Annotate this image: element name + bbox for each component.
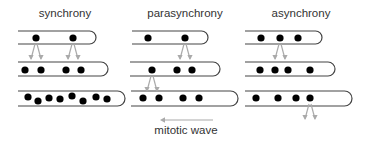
nucleus-dot <box>181 34 188 41</box>
nucleus-dot <box>21 66 28 73</box>
nucleus-dot <box>24 93 31 100</box>
nucleus-dot <box>284 66 291 73</box>
nucleus-dot <box>256 66 263 73</box>
nucleus-dot <box>294 34 301 41</box>
arrow-head-icon <box>282 55 287 60</box>
panel-parasynchrony: parasynchrony <box>130 7 238 106</box>
nucleus-dot <box>276 34 283 41</box>
nucleus-dot <box>77 66 84 73</box>
panel-asynchrony: asynchrony <box>245 7 352 120</box>
arrow-head-icon <box>187 55 192 60</box>
nucleus-dot <box>69 34 76 41</box>
arrow-head-icon <box>65 55 70 60</box>
nucleus-dot <box>195 94 202 101</box>
hypha-tube <box>132 31 208 44</box>
nucleus-dot <box>62 66 69 73</box>
arrow-head-icon <box>38 55 43 60</box>
nucleus-dot <box>34 97 41 104</box>
nucleus-dot <box>306 94 313 101</box>
nucleus-dot <box>257 34 264 41</box>
nucleus-dot <box>68 92 75 99</box>
nucleus-dot <box>188 66 195 73</box>
panel-synchrony: synchrony <box>18 7 125 106</box>
nucleus-dot <box>45 94 52 101</box>
nucleus-dot <box>79 97 86 104</box>
panel-title: parasynchrony <box>147 7 223 19</box>
nucleus-dot <box>144 34 151 41</box>
nucleus-dot <box>139 94 146 101</box>
nuclear-division-diagram: synchronyparasynchronyasynchronymitotic … <box>0 0 371 143</box>
nucleus-dot <box>148 66 155 73</box>
nucleus-dot <box>292 94 299 101</box>
nucleus-dot <box>252 94 259 101</box>
nucleus-dot <box>306 66 313 73</box>
nucleus-dot <box>32 34 39 41</box>
nucleus-dot <box>274 94 281 101</box>
nucleus-dot <box>271 66 278 73</box>
arrow-head-icon <box>75 55 80 60</box>
arrow-head-icon <box>312 115 317 120</box>
nucleus-dot <box>173 66 180 73</box>
panel-title: asynchrony <box>272 7 331 19</box>
panel-title: synchrony <box>39 7 92 19</box>
nucleus-dot <box>92 93 99 100</box>
arrow-head-icon <box>177 55 182 60</box>
arrow-head-icon <box>272 55 277 60</box>
arrow-head-icon <box>28 55 33 60</box>
hypha-tube <box>18 31 96 44</box>
nucleus-dot <box>179 94 186 101</box>
nucleus-dot <box>103 95 110 102</box>
mitotic-wave-label: mitotic wave <box>154 124 217 136</box>
nucleus-dot <box>37 66 44 73</box>
arrow-left-icon <box>160 117 165 123</box>
mitotic-wave: mitotic wave <box>154 117 217 136</box>
nucleus-dot <box>56 95 63 102</box>
diagram-svg: synchronyparasynchronyasynchronymitotic … <box>0 0 371 143</box>
arrow-head-icon <box>302 115 307 120</box>
nucleus-dot <box>155 94 162 101</box>
